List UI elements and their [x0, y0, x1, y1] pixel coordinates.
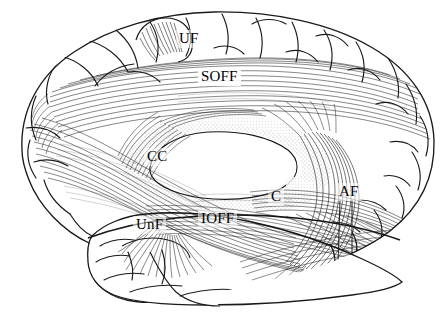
- tract-label-unf: UnF: [133, 216, 166, 234]
- brain-illustration: [0, 0, 445, 325]
- brain-tract-figure: UF SOFF CC UnF IOFF C AF: [0, 0, 445, 325]
- tract-label-uf: UF: [176, 30, 202, 48]
- tract-label-c: C: [268, 188, 284, 206]
- tract-label-soff: SOFF: [198, 68, 241, 86]
- tract-label-cc: CC: [144, 148, 170, 166]
- tract-label-af: AF: [336, 183, 362, 201]
- tract-label-ioff: IOFF: [198, 210, 237, 228]
